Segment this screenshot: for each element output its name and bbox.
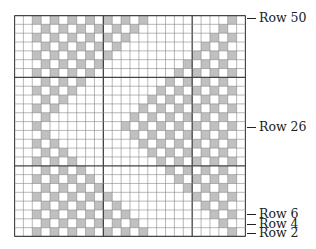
filled-cell: [121, 210, 130, 219]
filled-cell: [192, 86, 201, 95]
filled-cell: [50, 192, 59, 201]
filled-cell: [130, 24, 139, 33]
filled-cell: [228, 69, 237, 78]
filled-cell: [59, 95, 68, 104]
tick-mark: [247, 214, 256, 215]
filled-cell: [228, 228, 237, 237]
filled-cell: [130, 130, 139, 139]
filled-cell: [201, 183, 210, 192]
filled-cell: [201, 130, 210, 139]
filled-cell: [174, 104, 183, 113]
filled-cell: [68, 175, 77, 184]
filled-cell: [77, 24, 86, 33]
filled-cell: [41, 95, 50, 104]
filled-cell: [174, 175, 183, 184]
grid-svg: [14, 15, 246, 237]
filled-cell: [32, 139, 41, 148]
filled-cell: [50, 33, 59, 42]
filled-cell: [68, 210, 77, 219]
filled-cell: [166, 166, 175, 175]
filled-cell: [68, 16, 77, 25]
filled-cell: [59, 60, 68, 69]
filled-cell: [32, 104, 41, 113]
filled-cell: [166, 130, 175, 139]
filled-cell: [86, 33, 95, 42]
filled-cell: [86, 175, 95, 184]
filled-cell: [103, 192, 112, 201]
filled-cell: [210, 33, 219, 42]
tick-mark: [247, 127, 256, 128]
filled-cell: [103, 210, 112, 219]
filled-cell: [219, 42, 228, 51]
filled-cell: [192, 157, 201, 166]
filled-cell: [183, 60, 192, 69]
filled-cell: [68, 33, 77, 42]
filled-cell: [201, 42, 210, 51]
filled-cell: [166, 95, 175, 104]
filled-cell: [183, 130, 192, 139]
filled-cell: [59, 42, 68, 51]
filled-cell: [121, 33, 130, 42]
filled-cell: [32, 51, 41, 60]
filled-cell: [166, 113, 175, 122]
filled-cell: [210, 51, 219, 60]
filled-cell: [201, 113, 210, 122]
knitting-chart-grid: [14, 15, 245, 236]
filled-cell: [219, 201, 228, 210]
filled-cell: [86, 69, 95, 78]
filled-cell: [210, 69, 219, 78]
filled-cell: [94, 183, 103, 192]
filled-cell: [130, 219, 139, 228]
filled-cell: [77, 201, 86, 210]
filled-cell: [192, 122, 201, 131]
filled-cell: [68, 228, 77, 237]
filled-cell: [183, 166, 192, 175]
filled-cell: [103, 51, 112, 60]
filled-cell: [68, 51, 77, 60]
filled-cell: [174, 86, 183, 95]
filled-cell: [210, 192, 219, 201]
filled-cell: [50, 175, 59, 184]
filled-cell: [77, 60, 86, 69]
filled-cell: [183, 95, 192, 104]
filled-cell: [210, 175, 219, 184]
filled-cell: [166, 77, 175, 86]
filled-cell: [86, 192, 95, 201]
filled-cell: [201, 148, 210, 157]
filled-cell: [139, 122, 148, 131]
filled-cell: [86, 51, 95, 60]
filled-cell: [139, 228, 148, 237]
filled-cell: [228, 16, 237, 25]
filled-cell: [148, 148, 157, 157]
filled-cell: [41, 148, 50, 157]
filled-cell: [130, 113, 139, 122]
filled-cell: [219, 183, 228, 192]
filled-cell: [112, 201, 121, 210]
filled-cell: [77, 42, 86, 51]
filled-cell: [219, 219, 228, 228]
filled-cell: [50, 157, 59, 166]
filled-cell: [157, 86, 166, 95]
filled-cell: [59, 148, 68, 157]
filled-cell: [32, 16, 41, 25]
filled-cell: [148, 113, 157, 122]
row-label-26: Row 26: [247, 121, 307, 133]
tick-mark: [247, 233, 256, 234]
filled-cell: [210, 122, 219, 131]
filled-cell: [103, 228, 112, 237]
filled-cell: [201, 95, 210, 104]
filled-cell: [94, 42, 103, 51]
filled-cell: [139, 16, 148, 25]
filled-cell: [32, 86, 41, 95]
filled-cell: [174, 69, 183, 78]
filled-cell: [32, 157, 41, 166]
filled-cell: [41, 166, 50, 175]
filled-cell: [148, 130, 157, 139]
filled-cell: [166, 148, 175, 157]
filled-cell: [59, 201, 68, 210]
filled-cell: [121, 122, 130, 131]
filled-cell: [148, 95, 157, 104]
filled-cell: [32, 33, 41, 42]
filled-cell: [50, 104, 59, 113]
filled-cell: [41, 183, 50, 192]
